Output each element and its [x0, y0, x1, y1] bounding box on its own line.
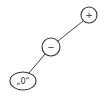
node-minus: −	[42, 38, 60, 56]
edge-minus-zero	[29, 54, 45, 73]
node-plus: +	[81, 7, 97, 23]
node-zero: „0“	[10, 72, 36, 90]
node-minus-label: −	[47, 42, 55, 52]
expression-tree-diagram: + − „0“	[0, 0, 106, 99]
node-plus-label: +	[85, 10, 93, 20]
edge-plus-minus	[58, 21, 83, 41]
node-zero-label: „0“	[16, 77, 29, 86]
